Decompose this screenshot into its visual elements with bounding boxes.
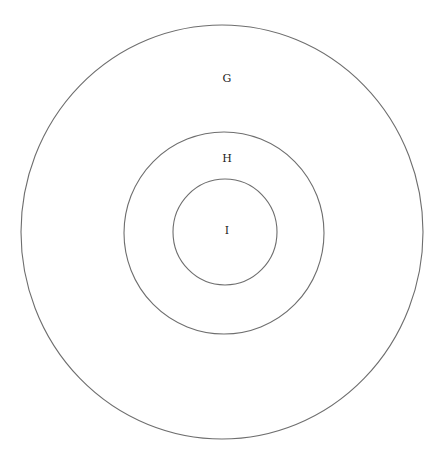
circle-g xyxy=(21,25,423,439)
venn-nested-diagram: G H I xyxy=(0,0,443,454)
label-g: G xyxy=(223,72,232,85)
label-h: H xyxy=(222,152,232,165)
label-i: I xyxy=(225,224,229,237)
